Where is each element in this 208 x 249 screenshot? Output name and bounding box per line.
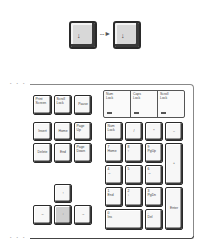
led-icon [161,112,166,115]
numpad-6-key[interactable]: 6 → [145,165,163,185]
down-arrow-icon: ↓ [62,213,64,217]
frame-dots-top: • • • [10,81,26,86]
numpad-7-key[interactable]: 7 Home [105,143,123,163]
page-up-key[interactable]: Page Up [74,122,92,141]
down-arrow-key-after: ↓ [113,21,141,49]
led-icon [134,112,139,115]
numpad-multiply-key[interactable]: * [145,122,163,141]
left-arrow-key[interactable]: ← [33,205,52,225]
left-arrow-icon: ← [41,213,44,217]
scroll-lock-indicator: Scroll Lock [158,91,184,117]
right-arrow-icon: → [81,213,84,217]
numpad-0-key[interactable]: 0 Ins [105,209,143,230]
end-key[interactable]: End [54,143,72,163]
down-arrow-key-before: ↓ [69,21,97,49]
insert-key[interactable]: Insert [33,122,52,141]
page-down-key[interactable]: Page Down [74,143,92,163]
scroll-lock-key[interactable]: Scroll Lock [54,95,72,115]
print-screen-key[interactable]: Print Screen [33,95,52,115]
numpad-decimal-key[interactable]: . Del [145,209,163,230]
numpad-8-key[interactable]: 8 ↑ [125,143,143,163]
numpad-1-key[interactable]: 1 End [105,187,123,207]
num-lock-indicator: Num Lock [104,91,131,117]
numpad-3-key[interactable]: 3 PgDn [145,187,163,207]
pause-key[interactable]: Pause [74,95,92,115]
keyboard-frame-right [190,84,194,236]
numpad-num-lock-key[interactable]: Num Lock [105,122,123,141]
numpad-2-key[interactable]: 2 ↓ [125,187,143,207]
keyboard-frame-bottom [30,236,194,239]
numpad-9-key[interactable]: 9 PgUp [145,143,163,163]
frame-dots-bottom: • • • [10,235,26,240]
transition-arrow-icon: - - ► [97,30,113,38]
numpad-enter-key[interactable]: Enter [165,187,183,230]
indicator-lights-panel: Num Lock Caps Lock Scroll Lock [103,90,185,118]
caps-lock-indicator: Caps Lock [131,91,158,117]
home-key[interactable]: Home [54,122,72,141]
right-arrow-key[interactable]: → [74,205,92,225]
down-arrow-icon: ↓ [77,32,81,39]
down-arrow-key[interactable]: ↓ [54,205,72,225]
numpad-divide-key[interactable]: / [125,122,143,141]
numpad-5-key[interactable]: 5 [125,165,143,185]
numpad-plus-key[interactable]: + [165,143,183,185]
numpad-minus-key[interactable]: – [165,122,183,141]
led-icon [107,112,112,115]
delete-key[interactable]: Delete [33,143,52,163]
up-arrow-icon: ↑ [62,192,64,196]
down-arrow-icon: ↓ [121,32,125,39]
numpad-4-key[interactable]: 4 ← [105,165,123,185]
keyboard-frame-top [30,84,190,85]
up-arrow-key[interactable]: ↑ [54,184,72,203]
